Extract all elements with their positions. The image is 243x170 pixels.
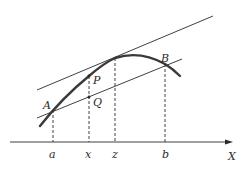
label-P: P xyxy=(92,74,101,87)
tick-label-x: x xyxy=(85,148,92,161)
x-axis-arrow-icon xyxy=(225,140,233,145)
tick-label-a: a xyxy=(49,148,56,161)
tick-label-z: z xyxy=(111,148,118,161)
tick-label-b: b xyxy=(162,148,169,161)
axis-label-X: X xyxy=(227,150,237,163)
point-P xyxy=(88,75,91,78)
label-A: A xyxy=(42,99,51,112)
label-Q: Q xyxy=(93,96,102,109)
secant-line-AB xyxy=(37,59,182,118)
mean-value-diagram: A P Q B a x z b X xyxy=(0,0,243,170)
point-Q xyxy=(88,96,91,99)
tangent-line xyxy=(37,16,213,90)
function-curve xyxy=(40,55,180,126)
label-B: B xyxy=(160,52,169,65)
